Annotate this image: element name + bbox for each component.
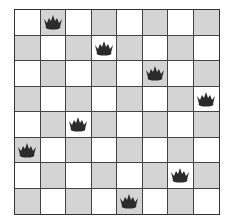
board-square-r3-c0[interactable] (15, 87, 41, 113)
board-square-r2-c1[interactable] (41, 61, 67, 87)
board-square-r0-c4[interactable] (117, 10, 143, 36)
board-square-r1-c1[interactable] (41, 36, 67, 62)
board-square-r4-c2[interactable] (66, 112, 92, 138)
board-square-r5-c0[interactable] (15, 138, 41, 164)
board-square-r3-c1[interactable] (41, 87, 67, 113)
board-square-r1-c4[interactable] (117, 36, 143, 62)
board-square-r2-c5[interactable] (143, 61, 169, 87)
board-square-r6-c5[interactable] (143, 163, 169, 189)
board-square-r5-c5[interactable] (143, 138, 169, 164)
queen-piece[interactable] (94, 40, 114, 56)
board-square-r4-c1[interactable] (41, 112, 67, 138)
crown-icon (145, 65, 165, 81)
board-square-r7-c2[interactable] (66, 189, 92, 215)
board-square-r0-c5[interactable] (143, 10, 169, 36)
board-square-r2-c2[interactable] (66, 61, 92, 87)
board-square-r3-c7[interactable] (194, 87, 220, 113)
board-square-r3-c2[interactable] (66, 87, 92, 113)
queen-piece[interactable] (17, 142, 37, 158)
board-square-r1-c2[interactable] (66, 36, 92, 62)
board-square-r2-c0[interactable] (15, 61, 41, 87)
board-square-r2-c6[interactable] (168, 61, 194, 87)
board-square-r6-c2[interactable] (66, 163, 92, 189)
crown-icon (68, 116, 88, 132)
board-square-r7-c6[interactable] (168, 189, 194, 215)
queen-piece[interactable] (119, 193, 139, 209)
board-square-r6-c4[interactable] (117, 163, 143, 189)
board-square-r4-c6[interactable] (168, 112, 194, 138)
board-square-r5-c3[interactable] (92, 138, 118, 164)
chess-board (14, 9, 220, 215)
board-square-r3-c5[interactable] (143, 87, 169, 113)
board-square-r6-c0[interactable] (15, 163, 41, 189)
queen-piece[interactable] (68, 116, 88, 132)
board-square-r4-c7[interactable] (194, 112, 220, 138)
board-square-r0-c3[interactable] (92, 10, 118, 36)
crown-icon (170, 167, 190, 183)
board-square-r7-c5[interactable] (143, 189, 169, 215)
queen-piece[interactable] (43, 14, 63, 30)
board-square-r7-c0[interactable] (15, 189, 41, 215)
board-square-r7-c1[interactable] (41, 189, 67, 215)
board-square-r0-c6[interactable] (168, 10, 194, 36)
board-square-r7-c7[interactable] (194, 189, 220, 215)
board-square-r5-c7[interactable] (194, 138, 220, 164)
board-square-r4-c5[interactable] (143, 112, 169, 138)
board-square-r6-c7[interactable] (194, 163, 220, 189)
board-square-r5-c1[interactable] (41, 138, 67, 164)
board-square-r5-c4[interactable] (117, 138, 143, 164)
queen-piece[interactable] (196, 91, 216, 107)
board-square-r3-c4[interactable] (117, 87, 143, 113)
board-square-r1-c0[interactable] (15, 36, 41, 62)
board-square-r4-c4[interactable] (117, 112, 143, 138)
board-square-r5-c6[interactable] (168, 138, 194, 164)
board-square-r4-c3[interactable] (92, 112, 118, 138)
board-square-r1-c6[interactable] (168, 36, 194, 62)
board-square-r0-c0[interactable] (15, 10, 41, 36)
board-square-r0-c7[interactable] (194, 10, 220, 36)
crown-icon (43, 14, 63, 30)
crown-icon (119, 193, 139, 209)
crown-icon (196, 91, 216, 107)
board-square-r2-c7[interactable] (194, 61, 220, 87)
crown-icon (17, 142, 37, 158)
board-square-r1-c7[interactable] (194, 36, 220, 62)
board-square-r3-c3[interactable] (92, 87, 118, 113)
board-square-r7-c3[interactable] (92, 189, 118, 215)
board-square-r6-c6[interactable] (168, 163, 194, 189)
board-square-r1-c3[interactable] (92, 36, 118, 62)
queen-piece[interactable] (170, 167, 190, 183)
board-square-r7-c4[interactable] (117, 189, 143, 215)
board-square-r0-c1[interactable] (41, 10, 67, 36)
board-square-r0-c2[interactable] (66, 10, 92, 36)
board-square-r3-c6[interactable] (168, 87, 194, 113)
board-square-r6-c1[interactable] (41, 163, 67, 189)
board-square-r4-c0[interactable] (15, 112, 41, 138)
board-square-r6-c3[interactable] (92, 163, 118, 189)
queen-piece[interactable] (145, 65, 165, 81)
board-square-r2-c4[interactable] (117, 61, 143, 87)
crown-icon (94, 40, 114, 56)
board-square-r2-c3[interactable] (92, 61, 118, 87)
board-square-r1-c5[interactable] (143, 36, 169, 62)
board-square-r5-c2[interactable] (66, 138, 92, 164)
